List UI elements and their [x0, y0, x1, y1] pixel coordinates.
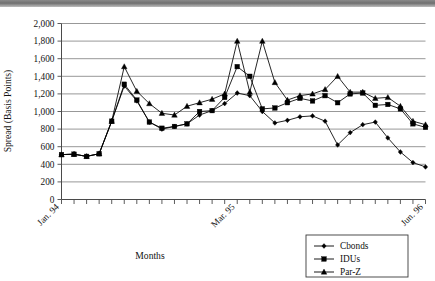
y-tick-marks	[58, 24, 62, 200]
y-tick-label: 1,400	[34, 72, 55, 82]
x-axis-title: Months	[135, 250, 165, 261]
data-point-marker	[398, 103, 404, 108]
y-tick-label: 1,200	[34, 89, 55, 99]
data-point-marker	[323, 93, 328, 98]
y-tick-labels: 02004006008001,0001,2001,4001,6001,8002,…	[34, 19, 55, 205]
legend-label[interactable]: IDUs	[340, 254, 361, 264]
series-par-z	[59, 38, 429, 158]
legend-label[interactable]: Par-Z	[340, 267, 361, 277]
data-point-marker	[147, 120, 152, 125]
data-point-marker	[160, 126, 165, 131]
data-point-marker	[298, 114, 302, 119]
chart-svg: 02004006008001,0001,2001,4001,6001,8002,…	[0, 0, 435, 281]
data-point-marker	[361, 122, 365, 127]
data-point-marker	[135, 98, 140, 103]
series-line	[62, 86, 426, 167]
y-tick-label: 2,000	[34, 19, 55, 29]
data-point-marker	[373, 103, 378, 108]
data-point-marker	[197, 109, 202, 114]
x-tick-marks	[62, 200, 426, 205]
data-point-marker	[272, 80, 278, 85]
data-point-marker	[335, 100, 340, 105]
y-tick-label: 1,600	[34, 54, 55, 64]
data-point-marker	[273, 106, 278, 111]
data-point-marker	[310, 114, 314, 119]
data-point-marker	[121, 64, 127, 69]
data-point-marker	[209, 96, 215, 101]
data-point-marker	[247, 74, 252, 79]
data-point-marker	[386, 102, 391, 107]
data-point-marker	[260, 107, 265, 112]
data-point-marker	[134, 88, 140, 93]
data-point-marker	[385, 95, 391, 100]
spread-line-chart: 02004006008001,0001,2001,4001,6001,8002,…	[0, 0, 435, 281]
series-layer	[59, 38, 429, 169]
legend-label[interactable]: Cbonds	[340, 241, 369, 251]
chart-legend[interactable]: CbondsIDUsPar-Z	[306, 235, 408, 277]
y-tick-label: 1,000	[34, 107, 55, 117]
x-tick-label: Jan. 94	[35, 202, 61, 228]
data-point-marker	[185, 122, 190, 127]
data-point-marker	[285, 118, 289, 123]
data-point-marker	[122, 82, 127, 87]
x-tick-labels: Jan. 94Mar. 95Jun. 96	[35, 202, 425, 230]
y-tick-label: 200	[41, 177, 55, 187]
y-axis-title: Spread (Basis Points)	[2, 70, 14, 153]
data-point-marker	[310, 99, 315, 104]
data-point-marker	[172, 124, 177, 129]
y-tick-label: 400	[41, 160, 55, 170]
x-tick-label: Mar. 95	[209, 202, 237, 230]
y-tick-label: 800	[41, 124, 55, 134]
data-point-marker	[247, 89, 253, 94]
x-tick-label: Jun. 96	[399, 202, 425, 228]
data-point-marker	[210, 108, 215, 113]
legend-marker	[322, 257, 327, 262]
data-point-marker	[323, 119, 327, 124]
y-tick-label: 1,800	[34, 36, 55, 46]
data-point-marker	[235, 64, 240, 69]
data-point-marker	[423, 165, 427, 170]
y-tick-label: 600	[41, 142, 55, 152]
